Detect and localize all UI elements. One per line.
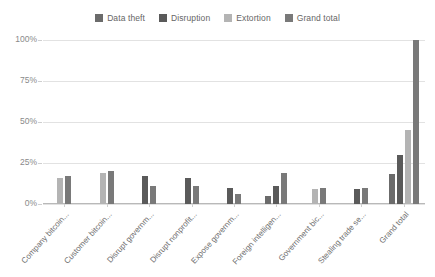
bar[interactable]	[65, 176, 71, 204]
bar[interactable]	[281, 173, 287, 204]
bar[interactable]	[100, 173, 106, 204]
bar[interactable]	[142, 176, 148, 204]
bar[interactable]	[150, 186, 156, 204]
x-axis-tick-mark	[234, 204, 235, 207]
bar-group	[213, 40, 255, 204]
x-axis-tick-label: Grand total	[377, 210, 410, 245]
y-axis-tick-mark	[38, 122, 42, 123]
y-axis-tick-mark	[38, 40, 42, 41]
x-axis-labels: Company bitcoin...Customer bitcoin...Dis…	[43, 204, 425, 277]
bar[interactable]	[235, 194, 241, 204]
bar-group	[170, 40, 212, 204]
y-axis-tick-mark	[38, 81, 42, 82]
x-axis-tick-mark	[107, 204, 108, 207]
y-axis-tick-mark	[38, 163, 42, 164]
x-axis-tick-mark	[276, 204, 277, 207]
bar-chart: Data theft Disruption Extortion Grand to…	[0, 0, 435, 277]
bar[interactable]	[320, 188, 326, 204]
chart-legend: Data theft Disruption Extortion Grand to…	[0, 13, 435, 23]
x-axis-label-cell: Stealing trade se...	[340, 204, 382, 277]
legend-swatch-disruption	[159, 14, 167, 22]
bar[interactable]	[405, 130, 411, 204]
x-axis-tick-mark	[149, 204, 150, 207]
bar[interactable]	[273, 186, 279, 204]
bar[interactable]	[185, 178, 191, 204]
bar-group	[340, 40, 382, 204]
bar-group	[298, 40, 340, 204]
legend-label-grand-total: Grand total	[297, 13, 340, 23]
legend-swatch-data-theft	[95, 14, 103, 22]
bar[interactable]	[397, 155, 403, 204]
bar-group	[383, 40, 425, 204]
bar[interactable]	[265, 196, 271, 204]
legend-label-extortion: Extortion	[236, 13, 270, 23]
bar[interactable]	[108, 171, 114, 204]
x-axis-label-cell: Grand total	[383, 204, 425, 277]
bar[interactable]	[193, 186, 199, 204]
x-axis-tick-mark	[64, 204, 65, 207]
bar[interactable]	[389, 174, 395, 204]
bar[interactable]	[57, 178, 63, 204]
bar[interactable]	[312, 189, 318, 204]
legend-swatch-extortion	[224, 14, 232, 22]
y-axis-tick-label: 100%	[0, 35, 37, 44]
x-axis-tick-mark	[192, 204, 193, 207]
bar-group	[43, 40, 85, 204]
y-axis-tick-label: 25%	[0, 158, 37, 167]
x-axis-tick-mark	[404, 204, 405, 207]
legend-swatch-grand-total	[285, 14, 293, 22]
y-axis-tick-label: 75%	[0, 76, 37, 85]
bar[interactable]	[227, 188, 233, 204]
y-axis-tick-label: 50%	[0, 117, 37, 126]
y-axis-tick-mark	[38, 204, 42, 205]
x-axis-tick-mark	[319, 204, 320, 207]
bar[interactable]	[413, 40, 419, 204]
legend-label-disruption: Disruption	[171, 13, 210, 23]
bar-group	[85, 40, 127, 204]
x-axis-tick-mark	[361, 204, 362, 207]
bar[interactable]	[362, 188, 368, 204]
y-axis-tick-label: 0%	[0, 199, 37, 208]
legend-item-extortion[interactable]: Extortion	[224, 13, 270, 23]
legend-label-data-theft: Data theft	[107, 13, 145, 23]
bar-groups	[43, 40, 425, 204]
bar-group	[255, 40, 297, 204]
legend-item-grand-total[interactable]: Grand total	[285, 13, 340, 23]
legend-item-data-theft[interactable]: Data theft	[95, 13, 145, 23]
bar[interactable]	[354, 189, 360, 204]
bar-group	[128, 40, 170, 204]
legend-item-disruption[interactable]: Disruption	[159, 13, 210, 23]
